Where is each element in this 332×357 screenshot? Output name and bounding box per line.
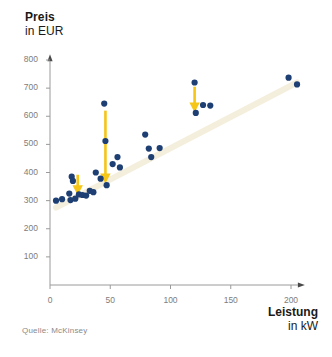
- data-point: [146, 145, 152, 151]
- x-tick-label: 200: [276, 295, 306, 305]
- x-tick-label: 50: [95, 295, 125, 305]
- x-axis-arrowhead: [298, 282, 305, 287]
- data-point: [110, 161, 116, 167]
- data-point: [104, 182, 110, 188]
- data-point: [192, 79, 198, 85]
- data-point: [294, 81, 300, 87]
- y-tick-label: 400: [12, 167, 38, 177]
- y-tick-label: 200: [12, 223, 38, 233]
- y-tick-label: 300: [12, 195, 38, 205]
- data-points: [53, 75, 300, 204]
- data-point: [114, 154, 120, 160]
- y-tick-label: 500: [12, 138, 38, 148]
- data-point: [93, 169, 99, 175]
- data-point: [148, 154, 154, 160]
- x-tick-label: 100: [156, 295, 186, 305]
- data-point: [142, 131, 148, 137]
- data-point: [117, 164, 123, 170]
- data-point: [207, 102, 213, 108]
- x-tick-label: 0: [35, 295, 65, 305]
- data-point: [200, 102, 206, 108]
- data-point: [193, 110, 199, 116]
- axis-lines: [46, 54, 305, 289]
- data-point: [90, 189, 96, 195]
- y-tick-label: 700: [12, 82, 38, 92]
- data-point: [285, 75, 291, 81]
- y-tick-label: 100: [12, 251, 38, 261]
- data-point: [102, 138, 108, 144]
- data-point: [157, 145, 163, 151]
- data-point: [98, 176, 104, 182]
- data-point: [53, 198, 59, 204]
- data-point: [70, 178, 76, 184]
- data-point: [66, 190, 72, 196]
- x-tick-label: 150: [216, 295, 246, 305]
- y-tick-label: 800: [12, 54, 38, 64]
- y-tick-label: 600: [12, 110, 38, 120]
- data-point: [59, 196, 65, 202]
- scatter-chart: Preis in EUR Leistung in kW Quelle: McKi…: [0, 0, 332, 357]
- data-point: [101, 100, 107, 106]
